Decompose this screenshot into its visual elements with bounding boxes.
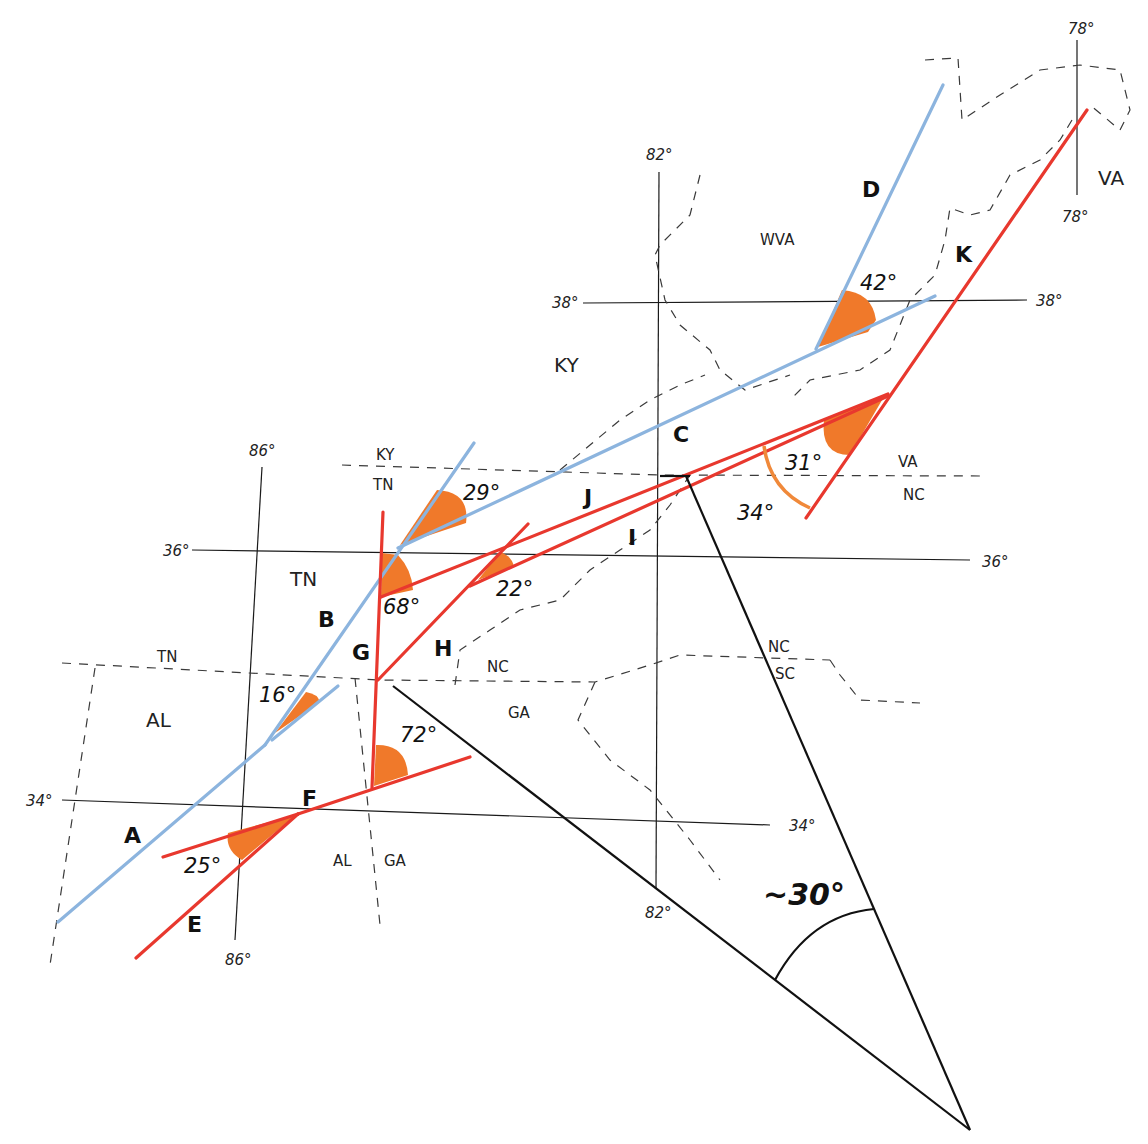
label-segment-k: K — [955, 242, 973, 267]
triangle-edge-lower — [393, 686, 970, 1130]
label-state-sc: SC — [775, 665, 795, 683]
ga-sc-border — [578, 682, 720, 880]
label-state-tn-main: TN — [289, 567, 317, 591]
graticule — [62, 40, 1077, 940]
red-segments — [136, 110, 1087, 958]
segment-j-line — [381, 394, 888, 597]
label-lat-34-right: 34° — [789, 817, 816, 835]
ky-tn-va-nc-border — [342, 465, 980, 476]
label-lon-86-bottom: 86° — [225, 951, 252, 969]
wva-va-border-south — [790, 120, 1072, 400]
label-angle-25: 25° — [184, 854, 221, 878]
label-lon-78-bottom: 78° — [1062, 208, 1089, 226]
lon-86-line — [235, 467, 262, 940]
triangle-arc — [775, 909, 874, 980]
label-lat-34-left: 34° — [26, 792, 53, 810]
label-lon-82-bottom: 82° — [645, 904, 672, 922]
segment-d-line — [816, 85, 943, 349]
wedge-25 — [228, 815, 296, 860]
label-state-wva: WVA — [760, 231, 795, 249]
lat-38-line — [583, 300, 1027, 303]
label-state-nc-main: NC — [487, 658, 509, 676]
label-segment-i: I — [628, 525, 636, 550]
blue-segments — [58, 85, 943, 922]
coordinate-labels: 78° 78° 82° 82° 86° 86° 38° 38° 36° 36° … — [26, 20, 1095, 969]
segment-e-splay — [163, 814, 298, 857]
label-state-ga-main: GA — [508, 704, 531, 722]
al-west-border — [50, 668, 95, 965]
label-lat-36-left: 36° — [163, 542, 190, 560]
label-lon-82-top: 82° — [646, 146, 673, 164]
ky-wva-border — [655, 175, 790, 390]
label-angle-34: 34° — [737, 501, 774, 525]
label-segment-j: J — [582, 485, 592, 510]
label-angle-68: 68° — [383, 595, 420, 619]
label-segment-g: G — [352, 640, 370, 665]
label-lat-38-left: 38° — [552, 294, 579, 312]
label-segment-e: E — [187, 912, 202, 937]
label-angle-72: 72° — [400, 723, 437, 747]
label-state-ga-bottom: GA — [384, 852, 407, 870]
label-segment-f: F — [302, 786, 317, 811]
triangle-edge-upper — [686, 476, 970, 1130]
label-angle-overall: ~30° — [763, 877, 845, 912]
label-segment-a: A — [124, 823, 141, 848]
label-state-va-top: VA — [1098, 166, 1124, 190]
state-borders — [50, 58, 1130, 965]
label-angle-16: 16° — [259, 683, 296, 707]
label-angle-29: 29° — [463, 481, 500, 505]
label-state-ky-border: KY — [376, 446, 395, 464]
lon-82-line — [656, 172, 659, 888]
wva-va-border — [925, 58, 1130, 130]
label-angle-31: 31° — [785, 451, 822, 475]
label-state-va-border: VA — [898, 453, 918, 471]
lat-34-line — [62, 800, 770, 825]
label-state-nc-border: NC — [903, 486, 925, 504]
tn-nc-border — [455, 475, 690, 685]
label-lat-38-right: 38° — [1036, 292, 1063, 310]
segment-b-line — [265, 443, 474, 745]
label-segment-d: D — [862, 177, 880, 202]
label-segment-b: B — [318, 607, 335, 632]
label-lat-36-right: 36° — [982, 553, 1009, 571]
label-lon-78-top: 78° — [1068, 20, 1095, 38]
label-state-tn-border: TN — [372, 476, 393, 494]
label-segment-h: H — [434, 636, 452, 661]
label-state-al-bottom: AL — [333, 852, 352, 870]
label-state-nc-sc-border: NC — [768, 638, 790, 656]
tectonic-map-diagram: 78° 78° 82° 82° 86° 86° 38° 38° 36° 36° … — [0, 0, 1148, 1144]
label-angle-42: 42° — [860, 271, 897, 295]
label-angle-22: 22° — [496, 577, 533, 601]
label-segment-c: C — [673, 422, 689, 447]
label-state-tn-al-border: TN — [156, 648, 177, 666]
label-lon-86-top: 86° — [249, 442, 276, 460]
label-state-ky-main: KY — [554, 353, 579, 377]
lat-36-line — [192, 550, 970, 560]
nc-sc-border — [830, 660, 920, 703]
label-state-al-main: AL — [146, 708, 172, 732]
